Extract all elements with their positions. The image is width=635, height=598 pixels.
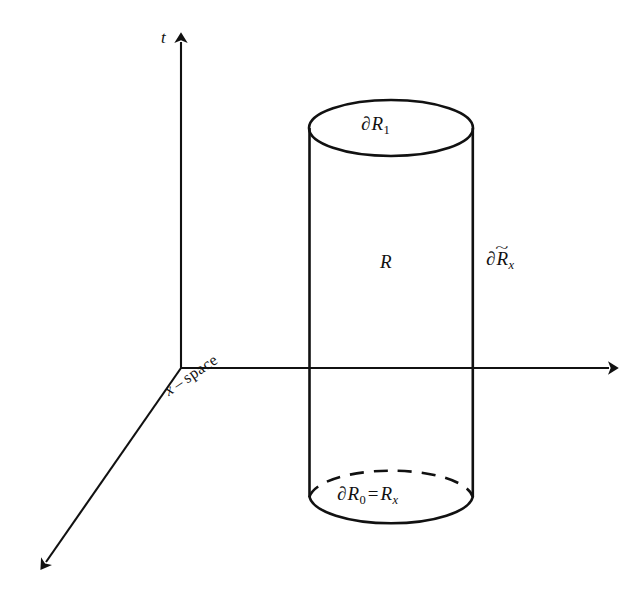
partial-symbol: ∂	[361, 113, 371, 134]
r-symbol: R	[371, 113, 383, 134]
subscript-one: 1	[383, 123, 390, 137]
label-bottom-boundary: ∂R0=Rx	[337, 483, 398, 508]
diagram-svg	[0, 0, 635, 598]
equals-sign: =	[366, 483, 381, 504]
axis-label-t: t	[161, 28, 166, 48]
r-symbol-lhs: R	[347, 483, 359, 504]
subscript-x-rhs: x	[392, 493, 398, 507]
cylinder-group	[309, 100, 473, 523]
partial-symbol: ∂	[337, 483, 347, 504]
label-top-boundary: ∂R1	[361, 113, 390, 138]
diagonal-axis-x-space	[46, 368, 181, 562]
subscript-zero: 0	[359, 493, 366, 507]
subscript-x: x	[508, 258, 514, 272]
axis-label-t-text: t	[161, 28, 166, 47]
figure-canvas: t ∂R1 R ∂~Rx ∂R0=Rx x–space	[0, 0, 635, 598]
region-symbol: R	[380, 251, 392, 272]
r-tilde-symbol: ~R	[496, 248, 508, 270]
axes-group	[46, 42, 609, 562]
label-lateral-boundary: ∂~Rx	[486, 248, 514, 273]
r-symbol-rhs: R	[380, 483, 392, 504]
tilde-accent-icon: ~	[495, 241, 508, 254]
cylinder-top-ellipse	[309, 100, 473, 156]
label-region-R: R	[380, 251, 392, 273]
